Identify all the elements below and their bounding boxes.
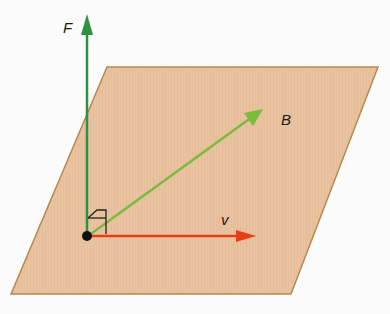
field-label: B	[281, 111, 291, 128]
origin-point	[82, 231, 92, 241]
force-label: F	[63, 19, 72, 36]
velocity-label: v	[221, 211, 229, 228]
diagram-svg	[0, 0, 390, 314]
plane	[11, 67, 378, 294]
diagram-canvas: F B v	[0, 0, 390, 314]
